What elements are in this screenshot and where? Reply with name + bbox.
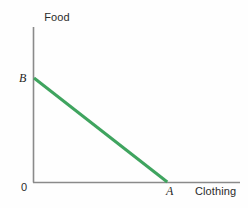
budget-line <box>34 78 167 182</box>
origin-label: 0 <box>21 181 27 193</box>
plot-area <box>0 0 248 208</box>
x-axis-title: Clothing <box>195 185 236 197</box>
y-axis-title: Food <box>44 11 69 23</box>
x-intercept-label-a: A <box>166 184 173 199</box>
budget-line-figure: Food Clothing B A 0 <box>0 0 248 208</box>
y-intercept-label-b: B <box>19 71 26 86</box>
